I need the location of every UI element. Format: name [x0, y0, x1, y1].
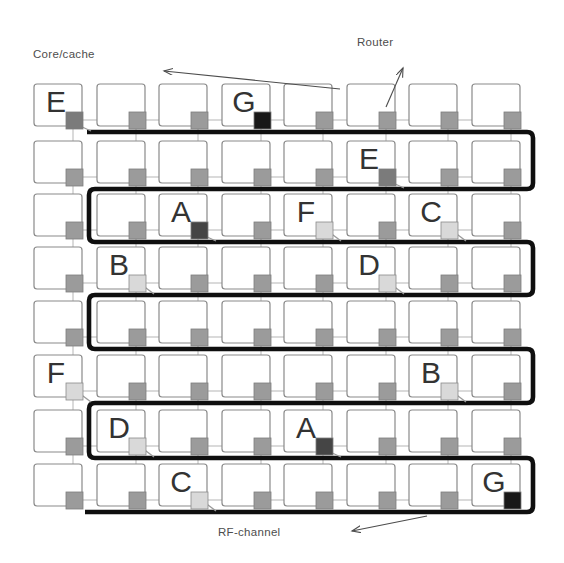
router-r0c7	[504, 112, 521, 129]
router-r3c6	[441, 275, 458, 292]
router-r0c2	[191, 112, 208, 129]
router-r4c4	[316, 329, 333, 346]
router-r2c4	[316, 222, 333, 239]
router-r3c2	[191, 275, 208, 292]
core-letter-e-r1c5: E	[359, 142, 379, 175]
router-r6c0	[66, 438, 83, 455]
router-r6c7	[504, 438, 521, 455]
noc-architecture-diagram: EGEAFCBDFBDACG Core/cache Router RF-chan…	[0, 0, 564, 563]
router-r7c5	[379, 492, 396, 509]
router-r4c6	[441, 329, 458, 346]
core-letter-f-r2c4: F	[297, 195, 315, 228]
router-r7c4	[316, 492, 333, 509]
router-r1c4	[316, 169, 333, 186]
router-r7c3	[254, 492, 271, 509]
router-r3c1	[129, 275, 146, 292]
router-r5c6	[441, 383, 458, 400]
router-r4c7	[504, 329, 521, 346]
router-r2c7	[504, 222, 521, 239]
router-r4c1	[129, 329, 146, 346]
router-label: Router	[357, 36, 393, 48]
core-letter-e-r0c0: E	[46, 85, 66, 118]
core-letter-c-r2c6: C	[420, 195, 442, 228]
router-r3c3	[254, 275, 271, 292]
router-r2c0	[66, 222, 83, 239]
core-letter-c-r7c2: C	[170, 465, 192, 498]
router-r1c2	[191, 169, 208, 186]
router-r2c6	[441, 222, 458, 239]
router-r7c0	[66, 492, 83, 509]
router-r5c2	[191, 383, 208, 400]
router-r4c0	[66, 329, 83, 346]
core-letter-a-r6c4: A	[296, 411, 316, 444]
router-r4c2	[191, 329, 208, 346]
core-letter-d-r3c5: D	[358, 248, 380, 281]
core-cache-label: Core/cache	[33, 48, 95, 60]
router-r4c3	[254, 329, 271, 346]
router-r6c4	[316, 438, 333, 455]
core-letter-g-r0c3: G	[232, 85, 255, 118]
rf-channel-arrow	[352, 516, 427, 531]
router-r6c2	[191, 438, 208, 455]
router-r2c2	[191, 222, 208, 239]
router-r2c1	[129, 222, 146, 239]
router-r1c6	[441, 169, 458, 186]
router-r6c3	[254, 438, 271, 455]
core-letter-g-r7c7: G	[482, 465, 505, 498]
router-r1c7	[504, 169, 521, 186]
router-r5c4	[316, 383, 333, 400]
router-r6c5	[379, 438, 396, 455]
router-r7c2	[191, 492, 208, 509]
router-r1c3	[254, 169, 271, 186]
router-r3c0	[66, 275, 83, 292]
router-r0c1	[129, 112, 146, 129]
router-r5c5	[379, 383, 396, 400]
router-r5c3	[254, 383, 271, 400]
router-r5c1	[129, 383, 146, 400]
router-r1c1	[129, 169, 146, 186]
core-letter-b-r5c6: B	[421, 356, 441, 389]
core-letter-b-r3c1: B	[109, 248, 129, 281]
router-r0c4	[316, 112, 333, 129]
router-r4c5	[379, 329, 396, 346]
router-r0c3	[254, 112, 271, 129]
core-letter-d-r6c1: D	[108, 411, 130, 444]
router-r2c5	[379, 222, 396, 239]
router-r6c1	[129, 438, 146, 455]
router-r7c6	[441, 492, 458, 509]
rf-channel-label: RF-channel	[218, 526, 280, 538]
diagram-svg: EGEAFCBDFBDACG Core/cache Router RF-chan…	[0, 0, 564, 563]
core-letter-f-r5c0: F	[47, 356, 65, 389]
router-r1c5	[379, 169, 396, 186]
router-r7c7	[504, 492, 521, 509]
router-r0c0	[66, 112, 83, 129]
router-r1c0	[66, 169, 83, 186]
router-r2c3	[254, 222, 271, 239]
router-r0c6	[441, 112, 458, 129]
router-r0c5	[379, 112, 396, 129]
router-r6c6	[441, 438, 458, 455]
router-r3c7	[504, 275, 521, 292]
router-r5c7	[504, 383, 521, 400]
router-r7c1	[129, 492, 146, 509]
core-letter-a-r2c2: A	[171, 195, 191, 228]
router-r3c5	[379, 275, 396, 292]
router-r5c0	[66, 383, 83, 400]
router-r3c4	[316, 275, 333, 292]
